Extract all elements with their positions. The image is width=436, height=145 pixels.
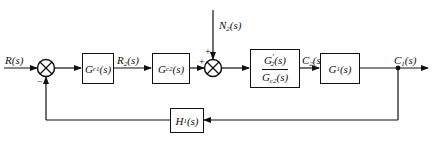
block-gc2: Gc2(s) bbox=[152, 53, 190, 84]
block-plant-ratio: G′2(s) Gc2(s) bbox=[250, 49, 300, 88]
den-main: G bbox=[262, 71, 270, 83]
block-arg: (s) bbox=[187, 115, 199, 127]
block-h1: H1(s) bbox=[170, 108, 204, 133]
fraction: G′2(s) Gc2(s) bbox=[262, 53, 288, 85]
block-main: G bbox=[85, 63, 93, 75]
block-arg: (s) bbox=[99, 63, 111, 75]
label-arg: (s) bbox=[405, 54, 417, 66]
label-arg: (s) bbox=[127, 54, 139, 66]
label-main: R bbox=[5, 54, 12, 66]
block-sub: c1 bbox=[93, 65, 100, 73]
label-main: R bbox=[117, 54, 124, 66]
output-signal-label: C1(s) bbox=[394, 55, 416, 68]
input-signal-label: R(s) bbox=[5, 55, 23, 66]
den-arg: (s) bbox=[276, 71, 288, 83]
fraction-numerator: G′2(s) bbox=[262, 53, 288, 70]
block-main: G bbox=[328, 63, 336, 75]
label-arg: (s) bbox=[230, 19, 242, 31]
block-arg: (s) bbox=[340, 63, 352, 75]
block-diagram-wiring bbox=[0, 0, 436, 145]
sum2-left-sign: + bbox=[199, 57, 205, 67]
block-sub: c2 bbox=[166, 65, 173, 73]
fraction-denominator: Gc2(s) bbox=[262, 70, 288, 85]
r2-signal-label: R2(s) bbox=[117, 55, 139, 68]
block-g1: G1(s) bbox=[320, 53, 360, 84]
block-arg: (s) bbox=[172, 63, 184, 75]
label-arg: (s) bbox=[12, 54, 24, 66]
block-main: H bbox=[175, 115, 183, 127]
num-arg: (s) bbox=[274, 54, 286, 66]
block-gc1: Gc1(s) bbox=[82, 53, 114, 84]
sum1-bottom-sign: − bbox=[37, 77, 43, 87]
block-main: G bbox=[158, 63, 166, 75]
sum2-top-sign: + bbox=[205, 47, 211, 57]
disturbance-signal-label: N2(s) bbox=[219, 20, 241, 33]
